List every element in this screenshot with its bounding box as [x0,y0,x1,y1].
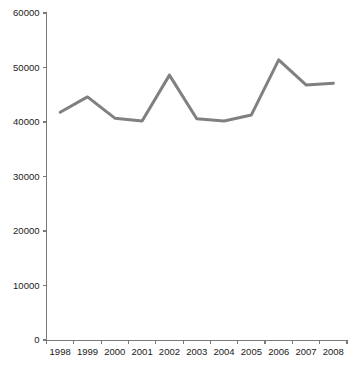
x-tick-label: 2007 [295,346,316,357]
y-tick-label: 40000 [13,116,39,127]
y-tick-label: 10000 [13,280,39,291]
y-tick-label: 60000 [13,7,39,18]
x-tick-label: 2004 [213,346,234,357]
chart-background [0,0,362,372]
x-tick-label: 2003 [186,346,207,357]
y-tick-label: 30000 [13,171,39,182]
x-tick-label: 2002 [159,346,180,357]
x-tick-label: 2000 [104,346,125,357]
line-chart: 0100002000030000400005000060000 19981999… [0,0,362,372]
y-tick-label: 0 [34,334,39,345]
x-axis-tick-labels: 1998199920002001200220032004200520062007… [50,346,344,357]
y-tick-label: 50000 [13,62,39,73]
chart-canvas: 0100002000030000400005000060000 19981999… [0,0,362,372]
x-tick-label: 1999 [77,346,98,357]
y-tick-label: 20000 [13,225,39,236]
x-tick-label: 2005 [241,346,262,357]
x-tick-label: 1998 [50,346,71,357]
x-tick-label: 2006 [268,346,289,357]
x-tick-label: 2008 [323,346,344,357]
x-tick-label: 2001 [132,346,153,357]
